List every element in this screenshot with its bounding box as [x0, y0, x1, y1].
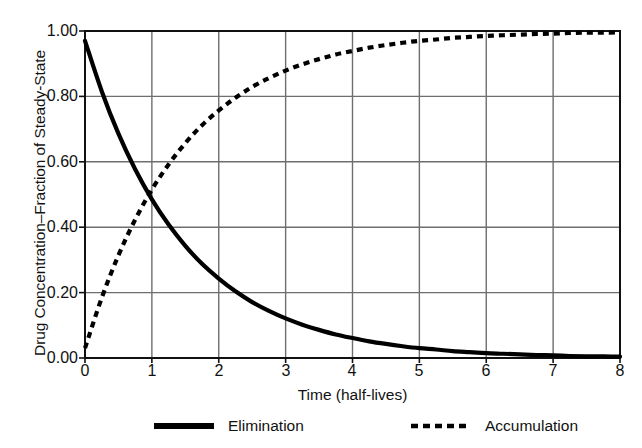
- x-tick-label: 2: [204, 362, 234, 380]
- x-tick-label: 1: [137, 362, 167, 380]
- legend-entry-accumulation: Accumulation: [410, 414, 578, 438]
- x-tick-label: 8: [605, 362, 635, 380]
- x-axis-tick-labels: 0 1 2 3 4 5 6 7 8: [0, 362, 642, 388]
- x-tick-label: 5: [404, 362, 434, 380]
- solid-line-swatch: [153, 418, 215, 434]
- legend-label-accumulation: Accumulation: [485, 417, 578, 435]
- chart-figure: Drug Concentration–Fraction of Steady-St…: [0, 0, 642, 448]
- x-tick-label: 6: [471, 362, 501, 380]
- x-axis-title: Time (half-lives): [85, 386, 620, 404]
- x-tick-label: 0: [70, 362, 100, 380]
- axis-ticks: [79, 31, 620, 363]
- dashed-line-swatch: [410, 418, 472, 434]
- gridlines: [85, 31, 620, 358]
- x-tick-label: 4: [337, 362, 367, 380]
- chart-legend: Elimination Accumulation: [85, 414, 620, 444]
- x-tick-label: 7: [538, 362, 568, 380]
- legend-entry-elimination: Elimination: [153, 414, 304, 438]
- x-tick-label: 3: [271, 362, 301, 380]
- legend-label-elimination: Elimination: [228, 417, 304, 435]
